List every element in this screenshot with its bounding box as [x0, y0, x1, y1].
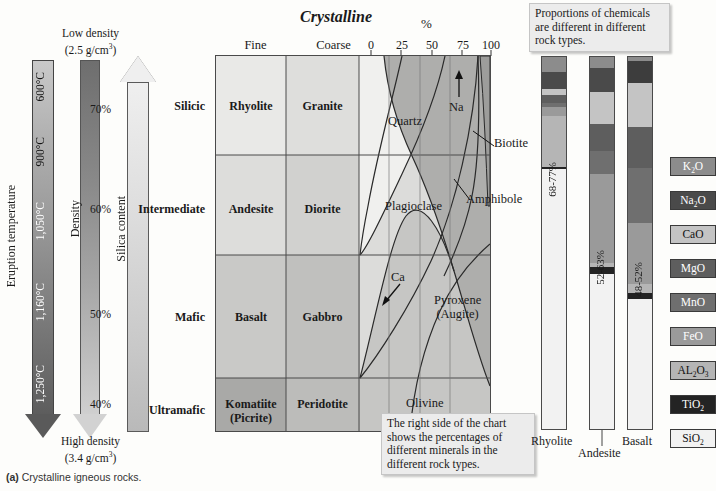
callout-proportions: Proportions of chemicals are different i…	[529, 3, 670, 52]
seg-mgo	[590, 124, 614, 151]
ca-arrow-icon	[380, 282, 402, 308]
seg-k2o	[542, 57, 566, 72]
mineral-label-amphibole: Amphibole	[466, 192, 522, 207]
cell-granite: Granite	[286, 99, 359, 114]
legend-na2o[interactable]: Na2O	[670, 191, 716, 210]
mineral-label-plagioclase: Plagioclase	[385, 199, 442, 214]
low-density-line2: (2.5 g/cm3)	[28, 40, 153, 57]
seg-mno	[590, 151, 614, 174]
chem-bar-rhyolite	[541, 56, 567, 430]
chart-title: Crystalline	[300, 8, 372, 26]
chem-bar-basalt	[627, 56, 653, 430]
seg-mno	[628, 168, 652, 223]
mineral-label-quartz: Quartz	[388, 114, 422, 129]
seg-cao	[590, 92, 614, 124]
high-density-label: High density (3.4 g/cm3)	[28, 434, 153, 465]
legend-feo[interactable]: FeO	[670, 327, 716, 346]
high-density-line1: High density	[28, 434, 153, 448]
pyroxene-line2: (Augite)	[434, 307, 481, 321]
temp-tick-2: 1,050°C	[34, 202, 46, 240]
chem-label-rhyolite: Rhyolite	[531, 434, 572, 449]
seg-mgo	[542, 95, 566, 103]
seg-sio2	[628, 299, 652, 429]
chem-label-andesite: Andesite	[578, 446, 621, 461]
cell-rhyolite: Rhyolite	[216, 99, 286, 114]
mineral-proportion-field	[359, 56, 490, 431]
chem-pct-andesite: 52-63%	[594, 250, 606, 285]
low-density-label: Low density (2.5 g/cm3)	[28, 26, 153, 57]
silica-arrow-shaft	[127, 82, 149, 432]
legend-al2o3[interactable]: AL2O3	[670, 361, 716, 380]
amphibole-leader-line	[452, 178, 472, 202]
row-label-intermediate: Intermediate	[105, 202, 205, 217]
legend-tio2[interactable]: TiO2	[670, 395, 716, 414]
chem-pct-basalt: 48-52%	[632, 262, 644, 297]
seg-na2o	[628, 61, 652, 83]
low-density-line1: Low density	[28, 26, 153, 40]
seg-na2o	[542, 72, 566, 89]
temp-tick-1: 900°C	[34, 137, 46, 167]
legend-sio2[interactable]: SiO2	[670, 429, 716, 448]
chem-label-basalt: Basalt	[622, 434, 652, 449]
temp-tick-3: 1,160°C	[34, 283, 46, 321]
andesite-leader-line	[601, 430, 605, 448]
legend-mno[interactable]: MnO	[670, 293, 716, 312]
legend-cao[interactable]: CaO	[670, 225, 716, 244]
chem-pct-rhyolite: 68-77%	[546, 162, 558, 197]
seg-na2o	[590, 68, 614, 92]
seg-sio2	[542, 169, 566, 429]
row-label-ultramafic: Ultramafic	[105, 403, 205, 418]
row-label-silicic: Silicic	[105, 99, 205, 114]
biotite-leader-line	[472, 130, 496, 148]
temp-tick-4: 1,250°C	[34, 365, 46, 403]
na-arrow-icon	[452, 70, 466, 98]
caption-text: Crystalline igneous rocks.	[22, 471, 142, 483]
chem-bar-andesite	[589, 56, 615, 430]
cell-komatiite-line2: (Picrite)	[216, 411, 286, 425]
legend-k2o[interactable]: K2O	[670, 157, 716, 176]
pyroxene-line1: Pyroxene	[434, 293, 481, 307]
caption-prefix: (a)	[6, 471, 19, 483]
cell-gabbro: Gabbro	[286, 310, 359, 325]
column-header-fine: Fine	[218, 38, 293, 53]
temp-tick-0: 600°C	[34, 72, 46, 102]
seg-k2o	[590, 57, 614, 68]
seg-mgo	[628, 127, 652, 168]
row-label-mafic: Mafic	[105, 310, 205, 325]
density-label: Density	[68, 200, 83, 237]
legend-mgo[interactable]: MgO	[670, 259, 716, 278]
figure-caption: (a) Crystalline igneous rocks.	[6, 471, 141, 483]
mineral-label-pyroxene: Pyroxene (Augite)	[434, 293, 481, 321]
percent-symbol: %	[421, 16, 432, 32]
seg-feo	[542, 107, 566, 116]
callout-right-side: The right side of the chart shows the pe…	[381, 413, 535, 475]
mineral-label-biotite: Biotite	[494, 136, 528, 151]
cell-andesite: Andesite	[216, 202, 286, 217]
cell-peridotite: Peridotite	[286, 397, 359, 412]
cell-komatiite-line1: Komatiite	[216, 397, 286, 411]
silica-arrow-head	[120, 56, 156, 82]
high-density-line2: (3.4 g/cm3)	[28, 448, 153, 465]
eruption-temperature-label: Eruption temperature	[4, 185, 19, 287]
seg-al2o3	[542, 116, 566, 167]
cell-basalt: Basalt	[216, 310, 286, 325]
mineral-label-olivine: Olivine	[406, 396, 444, 411]
cell-komatiite: Komatiite (Picrite)	[216, 397, 286, 425]
seg-cao	[628, 83, 652, 127]
mineral-label-na: Na	[449, 100, 464, 115]
cell-diorite: Diorite	[286, 202, 359, 217]
seg-sio2	[590, 274, 614, 429]
